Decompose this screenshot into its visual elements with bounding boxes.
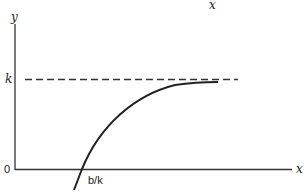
x-axis-label: x xyxy=(296,162,303,176)
diagram-canvas: x y x 0 k b/k xyxy=(0,0,304,193)
y-axis-label: y xyxy=(10,10,18,24)
origin-label: 0 xyxy=(4,163,10,175)
figure-title: x xyxy=(209,0,216,12)
asymptote-label: k xyxy=(5,72,12,86)
intercept-label: b/k xyxy=(88,174,103,186)
